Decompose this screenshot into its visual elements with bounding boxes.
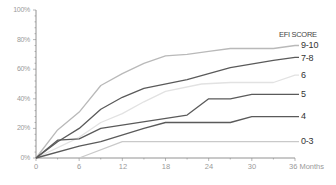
- y-tick-label-40: 40%: [4, 95, 30, 102]
- series-label-6: 6: [301, 70, 306, 80]
- series-label-4: 4: [301, 111, 306, 121]
- series-line-7-8: [36, 57, 299, 158]
- y-tick-label-60: 60%: [4, 65, 30, 72]
- x-tick-label-6: 6: [69, 162, 89, 171]
- x-tick-label-0: 0: [26, 162, 46, 171]
- series-label-5: 5: [301, 89, 306, 99]
- series-label-0-3: 0-3: [301, 136, 313, 146]
- y-tick-label-100: 100%: [4, 6, 30, 13]
- series-line-0-3: [79, 142, 299, 158]
- y-tick-label-20: 20%: [4, 124, 30, 131]
- x-tick-label-36-months: 36 Months: [289, 162, 324, 171]
- series-line-4: [36, 117, 299, 158]
- series-label-7-8: 7-8: [301, 53, 313, 63]
- x-tick-label-18: 18: [156, 162, 176, 171]
- x-tick-label-24: 24: [199, 162, 219, 171]
- series-line-5: [36, 94, 299, 158]
- x-tick-label-12: 12: [113, 162, 133, 171]
- y-tick-label-80: 80%: [4, 36, 30, 43]
- efi-score-line-chart: 100% 80% 60% 40% 20% 0% 0 6 12 18 24 30 …: [0, 0, 336, 185]
- plot-area: [0, 0, 336, 185]
- y-tick-label-0: 0%: [4, 154, 30, 161]
- legend-title: EFI SCORE: [279, 30, 317, 39]
- series-label-9-10: 9-10: [301, 40, 318, 50]
- x-tick-label-30: 30: [242, 162, 262, 171]
